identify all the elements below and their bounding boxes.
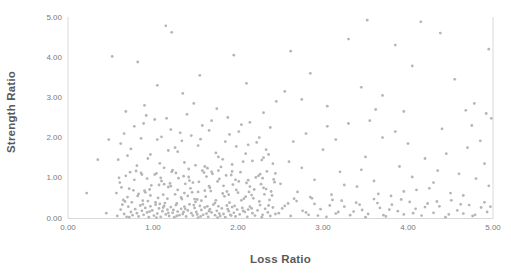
data-point <box>239 171 242 174</box>
data-point <box>366 19 369 22</box>
data-point <box>432 181 435 184</box>
data-point <box>164 24 167 27</box>
data-point <box>142 213 145 216</box>
data-point <box>107 138 110 141</box>
data-point <box>252 197 255 200</box>
data-point <box>235 145 238 148</box>
data-point <box>249 185 252 188</box>
data-point <box>188 179 191 182</box>
data-point <box>267 153 270 156</box>
data-point <box>483 162 486 165</box>
data-point <box>136 61 139 64</box>
data-point <box>288 160 291 163</box>
data-point <box>319 208 322 211</box>
data-point <box>222 213 225 216</box>
data-point <box>490 117 493 120</box>
data-point <box>373 198 376 201</box>
data-point <box>124 200 127 203</box>
data-point <box>162 193 165 196</box>
data-point <box>206 167 209 170</box>
data-point <box>305 132 308 135</box>
data-point <box>322 148 325 151</box>
data-point <box>217 156 220 159</box>
data-point <box>203 206 206 209</box>
plot-area: 0.001.002.003.004.005.00 0.001.002.003.0… <box>0 0 511 276</box>
data-point <box>439 32 442 35</box>
data-point <box>194 164 197 167</box>
y-tick-label: 1.00 <box>46 173 62 182</box>
data-point <box>343 205 346 208</box>
data-point <box>169 185 172 188</box>
data-point <box>146 211 149 214</box>
data-point <box>134 208 137 211</box>
data-point <box>126 196 129 199</box>
data-point <box>287 202 290 205</box>
data-point <box>364 156 367 159</box>
data-point <box>411 176 414 179</box>
data-point <box>151 209 154 212</box>
data-point <box>309 196 312 199</box>
data-point <box>156 84 159 87</box>
data-point <box>206 205 209 208</box>
data-point <box>275 100 278 103</box>
data-point <box>419 20 422 23</box>
data-point <box>473 102 476 105</box>
data-point <box>158 184 161 187</box>
data-point <box>317 214 320 217</box>
data-point <box>355 201 358 204</box>
data-point <box>486 211 489 214</box>
data-point <box>381 94 384 97</box>
data-point <box>133 125 136 128</box>
data-point <box>373 180 376 183</box>
data-point <box>171 211 174 214</box>
data-point <box>227 193 230 196</box>
data-point <box>150 184 153 187</box>
data-point <box>215 107 218 110</box>
data-point <box>153 118 156 121</box>
data-point <box>273 181 276 184</box>
data-point <box>141 199 144 202</box>
data-point <box>432 211 435 214</box>
data-point <box>192 204 195 207</box>
data-point <box>184 182 187 185</box>
data-point <box>246 215 249 218</box>
data-point <box>161 210 164 213</box>
data-point <box>210 211 213 214</box>
data-point <box>334 138 337 141</box>
data-point <box>136 212 139 215</box>
data-point <box>163 183 166 186</box>
data-point <box>343 184 346 187</box>
data-point <box>300 98 303 101</box>
data-point <box>438 205 441 208</box>
data-point <box>189 187 192 190</box>
data-point <box>123 213 126 216</box>
data-point <box>196 198 199 201</box>
x-tick-label: 3.00 <box>315 223 331 232</box>
data-point <box>464 109 467 112</box>
data-point <box>156 212 159 215</box>
data-point <box>182 211 185 214</box>
data-point <box>149 153 152 156</box>
data-point <box>456 209 459 212</box>
data-point <box>313 203 316 206</box>
data-point <box>180 207 183 210</box>
data-point <box>257 174 260 177</box>
data-point <box>376 202 379 205</box>
data-point <box>436 169 439 172</box>
scatter-points <box>85 19 492 219</box>
data-point <box>156 138 159 141</box>
data-point <box>130 211 133 214</box>
data-point <box>441 127 444 130</box>
data-point <box>330 193 333 196</box>
data-point <box>367 213 370 216</box>
data-point <box>218 212 221 215</box>
data-point <box>123 132 126 135</box>
x-tick-label: 1.00 <box>145 223 161 232</box>
data-point <box>176 210 179 213</box>
data-point <box>305 211 308 214</box>
data-point <box>234 178 237 181</box>
data-point <box>200 199 203 202</box>
x-tick-label: 2.00 <box>230 223 246 232</box>
data-point <box>245 82 248 85</box>
data-point <box>149 205 152 208</box>
